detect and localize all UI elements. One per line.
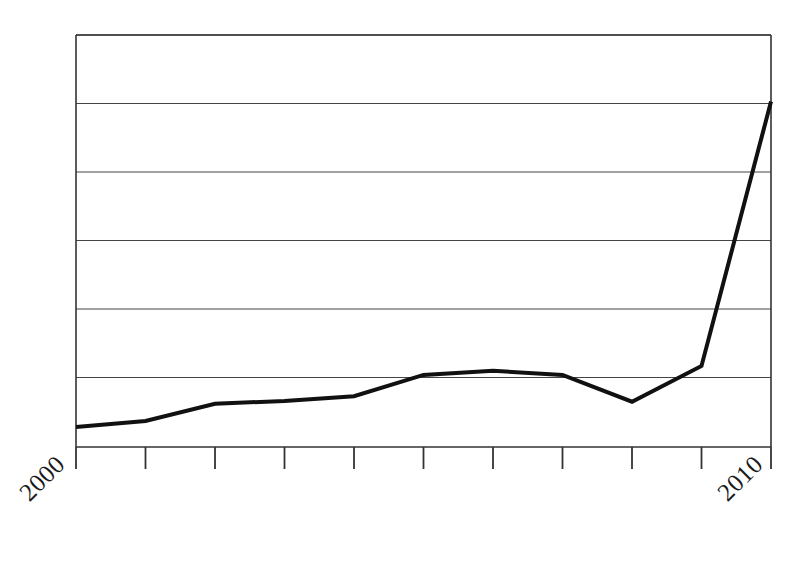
line-chart-svg — [0, 0, 811, 567]
x-axis-ticks — [76, 447, 771, 469]
chart-figure: 2000 2010 — [0, 0, 811, 567]
